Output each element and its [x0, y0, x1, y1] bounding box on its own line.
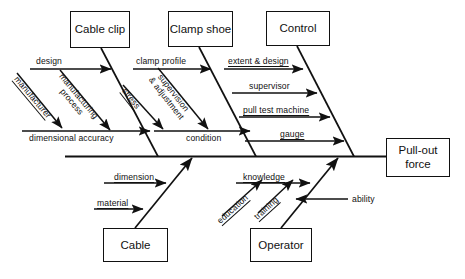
- cause-label-ability: ability: [352, 194, 375, 204]
- effect-box-pull-out-force[interactable]: Pull-out force: [386, 138, 450, 177]
- category-label-cable-clip: Cable clip: [75, 23, 126, 36]
- category-box-operator[interactable]: Operator: [250, 228, 312, 262]
- cause-label-material: material: [97, 198, 128, 208]
- effect-label-line1: Pull-out: [399, 144, 438, 158]
- cause-label-gauge: gauge: [280, 129, 304, 139]
- cause-label-dimensional-accuracy: dimensional accuracy: [29, 133, 114, 143]
- cause-label-design: design: [36, 56, 62, 66]
- cause-label-pull-test-machine: pull test machine: [243, 105, 309, 115]
- category-box-cable-clip[interactable]: Cable clip: [70, 11, 130, 48]
- category-label-clamp-shoe: Clamp shoe: [170, 23, 231, 36]
- effect-label-line2: force: [405, 158, 431, 172]
- category-box-cable[interactable]: Cable: [103, 228, 168, 262]
- cause-label-condition: condition: [186, 133, 221, 143]
- rib-control: [297, 46, 354, 157]
- fishbone-diagram-canvas: Cable clip Clamp shoe Control Cable Oper…: [0, 0, 465, 279]
- category-label-control: Control: [279, 22, 316, 35]
- cause-label-knowledge: knowledge: [243, 172, 285, 182]
- category-box-control[interactable]: Control: [266, 11, 330, 46]
- cause-label-supervisor: supervisor: [249, 81, 290, 91]
- rib-cable: [135, 158, 192, 228]
- rib-operator: [281, 158, 338, 228]
- category-label-operator: Operator: [258, 239, 303, 252]
- cause-label-clamp-profile: clamp profile: [136, 56, 186, 66]
- cause-label-extent-design: extent & design: [228, 56, 289, 66]
- category-label-cable: Cable: [120, 239, 150, 252]
- cause-label-dimension: dimension: [114, 172, 154, 182]
- category-box-clamp-shoe[interactable]: Clamp shoe: [168, 11, 233, 47]
